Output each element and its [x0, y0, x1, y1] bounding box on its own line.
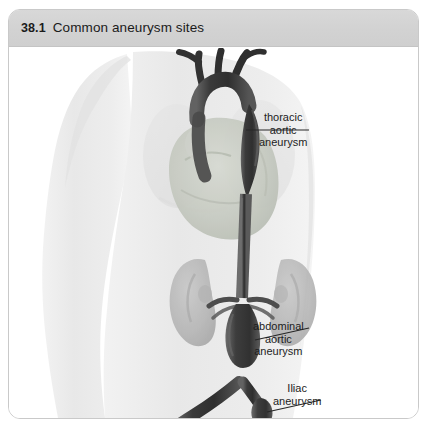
label-thoracic-line-3: aneurysm [259, 136, 307, 149]
label-abdominal-line-1: abdominal [253, 320, 304, 333]
figure-panel: 38.1Common aneurysm sites [8, 9, 419, 419]
label-iliac-line-1: Iliac [273, 382, 321, 395]
label-abdominal-line-3: aneurysm [253, 345, 304, 358]
label-abdominal-aortic-aneurysm: abdominal aortic aneurysm [253, 320, 304, 358]
figure-number: 38.1 [21, 21, 46, 35]
label-iliac-aneurysm: Iliac aneurysm [273, 382, 321, 407]
label-iliac-line-2: aneurysm [273, 395, 321, 408]
aorta-anatomy-svg [9, 48, 418, 418]
label-abdominal-line-2: aortic [253, 333, 304, 346]
label-thoracic-line-2: aortic [259, 124, 307, 137]
label-thoracic-aortic-aneurysm: thoracic aortic aneurysm [259, 111, 307, 149]
anatomy-illustration: thoracic aortic aneurysm abdominal aorti… [9, 48, 418, 418]
label-thoracic-line-1: thoracic [259, 111, 307, 124]
figure-caption: Common aneurysm sites [53, 20, 204, 35]
figure-title: 38.1Common aneurysm sites [21, 20, 204, 35]
